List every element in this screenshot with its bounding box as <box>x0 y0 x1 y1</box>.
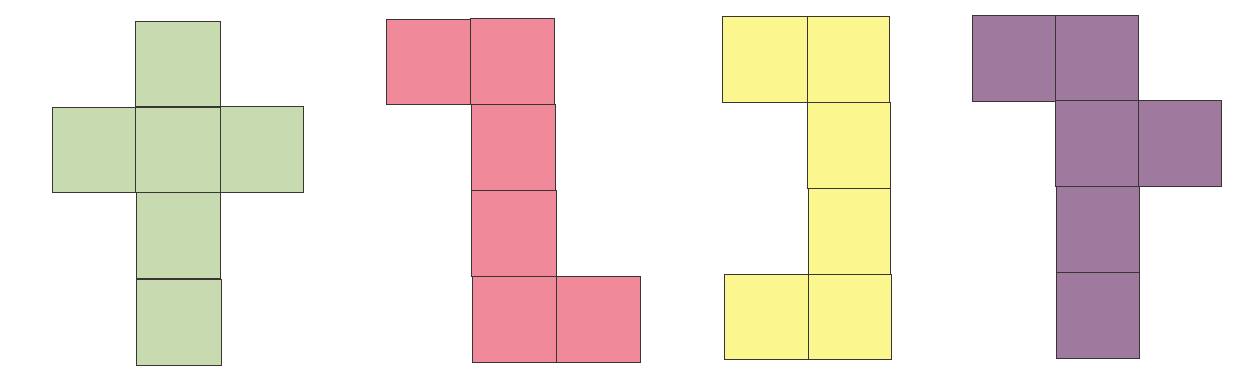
net-square <box>220 106 304 193</box>
net-square <box>808 188 891 275</box>
net-square <box>136 279 222 366</box>
net-square <box>471 104 556 191</box>
net-square <box>471 190 557 277</box>
net-square <box>470 18 555 105</box>
net-square <box>386 19 471 105</box>
net-square <box>807 102 891 189</box>
net-square <box>1056 186 1140 273</box>
net-square <box>556 276 641 363</box>
net-square <box>808 274 892 360</box>
net-square <box>136 192 221 279</box>
net-square <box>135 107 221 193</box>
net-square <box>1055 15 1139 102</box>
net-square <box>1055 100 1139 187</box>
net-square <box>52 107 136 193</box>
net-square <box>472 276 557 363</box>
net-square <box>724 274 809 360</box>
net-square <box>722 16 808 103</box>
net-square <box>1056 272 1140 359</box>
net-square <box>135 21 221 107</box>
net-square <box>972 15 1056 102</box>
net-square <box>807 16 890 103</box>
net-square <box>1138 100 1222 187</box>
